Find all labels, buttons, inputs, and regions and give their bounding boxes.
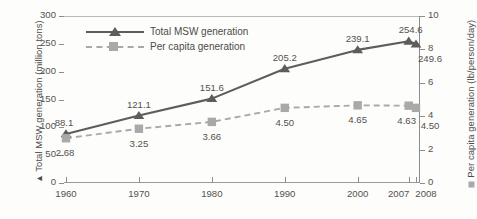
data-point-label: 2.68 — [56, 147, 75, 158]
y-axis-right-tick — [420, 150, 425, 151]
y-axis-left-tick-label: 50 — [45, 148, 56, 159]
data-point-marker — [281, 104, 289, 112]
y-axis-right-tick-label: 2 — [428, 143, 433, 154]
y-axis-right-tick-label: 4 — [428, 109, 433, 120]
x-axis-tick-label: 1960 — [55, 188, 76, 199]
y-axis-right-tick-label: 0 — [428, 176, 433, 187]
y-axis-left-tick — [59, 183, 64, 184]
chart-figure: ▲ Total MSW generation (million tons) Pe… — [0, 0, 477, 219]
x-axis-tick-label: 2007 — [388, 188, 409, 199]
y-axis-right-tick-label: 10 — [428, 9, 439, 20]
data-point-label: 3.66 — [202, 131, 221, 142]
y-axis-right-tick-label: 6 — [428, 76, 433, 87]
x-axis-tick-label: 1990 — [274, 188, 295, 199]
y-axis-right-tick — [420, 16, 425, 17]
data-point-label: 254.6 — [399, 24, 423, 35]
y-axis-left-tick-label: 250 — [40, 37, 56, 48]
x-axis-tick-label: 1970 — [128, 188, 149, 199]
data-point-label: 4.63 — [397, 115, 416, 126]
data-point-marker — [403, 37, 414, 45]
y-axis-right-tick-label: 8 — [428, 42, 433, 53]
y-axis-right-tick — [420, 83, 425, 84]
data-point-label: 4.50 — [275, 117, 294, 128]
data-point-label: 239.1 — [346, 33, 370, 44]
y-axis-left-tick-label: 150 — [40, 93, 56, 104]
data-point-label: 4.50 — [421, 120, 440, 131]
y-axis-left-tick-label: 200 — [40, 65, 56, 76]
data-point-label: 205.2 — [273, 52, 297, 63]
data-point-marker — [208, 118, 216, 126]
data-point-label: 249.6 — [418, 53, 442, 64]
square-icon — [468, 181, 474, 187]
y-axis-right-tick — [420, 49, 425, 50]
data-point-marker — [62, 134, 70, 142]
data-point-label: 151.6 — [200, 82, 224, 93]
plot-area: Total MSW generation Per capita generati… — [64, 16, 420, 183]
y-axis-right-tick — [420, 183, 425, 184]
x-axis-tick-label: 2008 — [415, 188, 436, 199]
y-axis-right-tick — [420, 116, 425, 117]
data-point-label: 3.25 — [130, 138, 149, 149]
y-axis-right-title-text: Per capita generation (lb/person/day) — [465, 20, 476, 178]
x-axis-tick-label: 1980 — [201, 188, 222, 199]
data-point-marker — [135, 125, 143, 133]
y-axis-left-tick-label: 100 — [40, 120, 56, 131]
data-point-label: 121.1 — [127, 99, 151, 110]
data-point-label: 88.1 — [55, 117, 74, 128]
y-axis-left-tick-label: 300 — [40, 9, 56, 20]
triangle-icon: ▲ — [33, 174, 43, 183]
data-point-marker — [412, 104, 420, 112]
y-axis-right-title: Per capita generation (lb/person/day) — [465, 4, 476, 204]
data-point-marker — [405, 101, 413, 109]
data-point-label: 4.65 — [348, 114, 367, 125]
x-axis-tick-label: 2000 — [347, 188, 368, 199]
data-point-marker — [353, 101, 361, 109]
y-axis-left-tick-label: 0 — [51, 176, 56, 187]
